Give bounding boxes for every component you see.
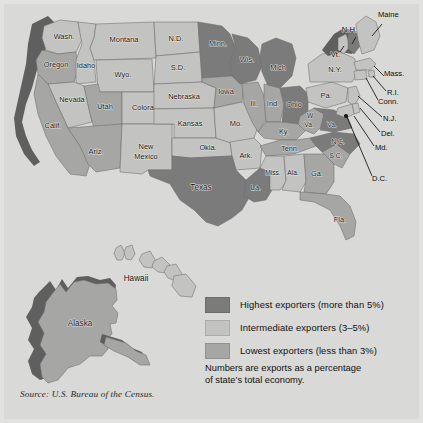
legend-swatch-highest bbox=[205, 297, 230, 313]
texas-label: Texas bbox=[190, 183, 211, 192]
south-dakota-label: S.D. bbox=[171, 63, 185, 72]
delaware-label: Del. bbox=[381, 129, 395, 138]
louisiana-label: La. bbox=[251, 183, 261, 192]
western-states: Wash. Oregon Idaho Montana Wyo. Nevada U… bbox=[34, 20, 174, 176]
conn-leader bbox=[366, 78, 378, 100]
new-hampshire-label: N.H. bbox=[342, 25, 357, 34]
alaska-aleutians[interactable] bbox=[104, 337, 150, 365]
del-leader bbox=[360, 108, 380, 132]
minnesota-label: Minn. bbox=[209, 39, 227, 48]
illinois-label: Ill. bbox=[250, 99, 257, 108]
ri-leader bbox=[373, 76, 386, 91]
west-virginia-label-line1: W bbox=[307, 112, 314, 119]
legend-row-lowest[interactable]: Lowest exporters (less than 3%) bbox=[205, 339, 423, 362]
california-label: Calif. bbox=[45, 121, 62, 130]
state-minnesota[interactable] bbox=[198, 22, 236, 78]
new-mexico-label-line1: New bbox=[139, 142, 154, 151]
map-legend: Highest exporters (more than 5%) Interme… bbox=[205, 293, 423, 362]
massachusetts-label: Mass. bbox=[384, 69, 404, 78]
north-dakota-label: N.D. bbox=[169, 34, 184, 43]
alaska-inset: Alaska bbox=[26, 276, 150, 383]
connecticut-label: Conn. bbox=[378, 97, 398, 106]
maine-label: Maine bbox=[378, 10, 399, 19]
alaska-label: Alaska bbox=[68, 319, 93, 328]
legend-label-intermediate: Intermediate exporters (3–5%) bbox=[240, 322, 370, 333]
state-rhode-island[interactable] bbox=[368, 70, 375, 77]
wisconsin-label: Wis. bbox=[240, 55, 254, 64]
new-york-label: N.Y. bbox=[328, 65, 341, 74]
nevada-label: Nevada bbox=[59, 95, 85, 104]
dc-label: D.C. bbox=[372, 174, 387, 183]
rhode-island-label: R.I. bbox=[387, 88, 399, 97]
hawaii-island-1[interactable] bbox=[114, 245, 125, 260]
vermont-label: Vt. bbox=[331, 50, 340, 59]
hawaii-label: Hawaii bbox=[124, 274, 149, 283]
map-figure: Alaska Hawaii Wash. Oregon Idaho Montana bbox=[0, 0, 423, 423]
maryland-label: Md. bbox=[375, 143, 388, 152]
mass-leader bbox=[374, 66, 384, 76]
state-maine[interactable] bbox=[356, 16, 380, 54]
state-massachusetts[interactable] bbox=[354, 58, 376, 70]
georgia-label: Ga. bbox=[311, 169, 323, 178]
hawaii-island-6[interactable] bbox=[172, 274, 196, 297]
utah-label: Utah bbox=[97, 102, 113, 111]
new-jersey-label: N.J. bbox=[383, 114, 397, 123]
new-mexico-label-line2: Mexico bbox=[134, 152, 157, 161]
south-carolina-label: S.C. bbox=[330, 152, 343, 159]
mid-atlantic-states: W Va. Va. Pa. N.Y. bbox=[298, 52, 360, 134]
indiana-label: Ind. bbox=[267, 99, 279, 108]
legend-label-lowest: Lowest exporters (less than 3%) bbox=[240, 345, 377, 356]
wyoming-label: Wyo. bbox=[115, 70, 132, 79]
legend-note-line-2: of state’s total economy. bbox=[205, 375, 420, 387]
washington-label: Wash. bbox=[54, 32, 75, 41]
oklahoma-label: Okla. bbox=[199, 143, 216, 152]
legend-note-line-1: Numbers are exports as a percentage bbox=[205, 363, 420, 375]
florida-label: Fla. bbox=[334, 215, 346, 224]
michigan-label: Mich bbox=[270, 63, 286, 72]
state-connecticut[interactable] bbox=[354, 70, 367, 80]
tennessee-label: Tenn. bbox=[281, 144, 299, 153]
legend-row-highest[interactable]: Highest exporters (more than 5%) bbox=[205, 293, 423, 316]
source-note: Source: U.S. Bureau of the Census. bbox=[20, 389, 155, 399]
arkansas-label: Ark. bbox=[239, 151, 252, 160]
idaho-label: Idaho bbox=[77, 61, 96, 70]
oregon-label: Oregon bbox=[44, 60, 69, 69]
hawaii-island-2[interactable] bbox=[124, 245, 135, 260]
kentucky-label: Ky. bbox=[279, 127, 289, 136]
north-carolina-label: N.C. bbox=[331, 138, 344, 145]
mississippi-label: Miss. bbox=[265, 169, 281, 176]
legend-note: Numbers are exports as a percentage of s… bbox=[205, 363, 420, 386]
hawaii-inset: Hawaii bbox=[114, 245, 196, 297]
arizona-label: Ariz. bbox=[89, 147, 104, 156]
legend-label-highest: Highest exporters (more than 5%) bbox=[240, 299, 384, 310]
alabama-label: Ala. bbox=[287, 169, 299, 176]
ohio-label: Ohio bbox=[286, 100, 302, 109]
legend-swatch-lowest bbox=[205, 343, 230, 359]
state-florida[interactable] bbox=[300, 192, 356, 240]
nebraska-label: Nebraska bbox=[168, 92, 201, 101]
kansas-label: Kansas bbox=[178, 119, 203, 128]
legend-swatch-intermediate bbox=[205, 320, 230, 336]
iowa-label: Iowa bbox=[218, 87, 235, 96]
missouri-label: Mo. bbox=[230, 119, 242, 128]
west-virginia-label-line2: Va. bbox=[304, 121, 314, 128]
pennsylvania-label: Pa. bbox=[320, 91, 331, 100]
virginia-label: Va. bbox=[327, 121, 337, 128]
montana-label: Montana bbox=[110, 35, 140, 44]
legend-row-intermediate[interactable]: Intermediate exporters (3–5%) bbox=[205, 316, 423, 339]
